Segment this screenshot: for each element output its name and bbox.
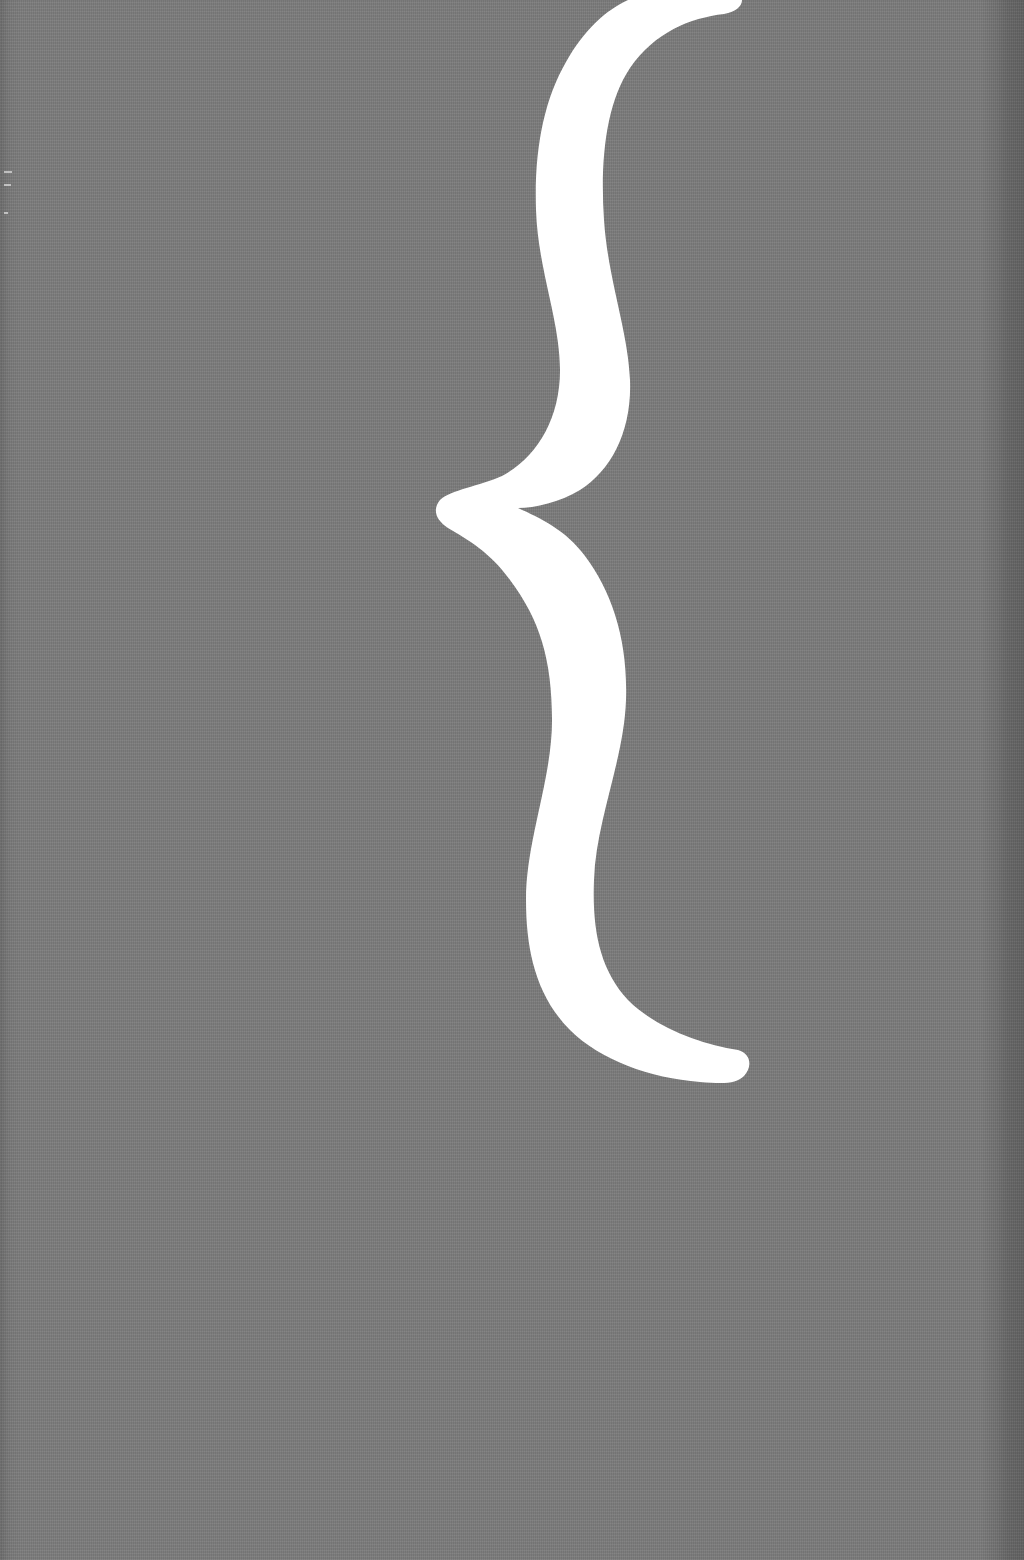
- book-cover: [0, 0, 1024, 1560]
- curly-brace-icon: [0, 0, 1024, 1560]
